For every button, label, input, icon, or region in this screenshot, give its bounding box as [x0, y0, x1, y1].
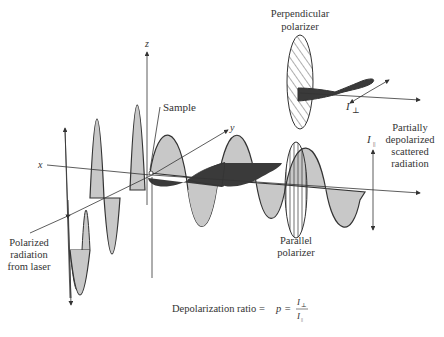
laser-label-3: from laser [8, 261, 51, 272]
i-perp-label: I ⊥ [345, 100, 360, 115]
svg-text:Depolarization ratio =: Depolarization ratio = [172, 303, 267, 314]
svg-text:⊥: ⊥ [301, 302, 307, 308]
scattered-label-2: depolarized [386, 134, 436, 145]
svg-text:||: || [301, 317, 303, 322]
svg-text:I: I [345, 100, 351, 112]
scattered-label-4: radiation [391, 158, 429, 169]
laser-label-2: radiation [10, 249, 48, 260]
perp-polarizer-label-2: polarizer [281, 21, 319, 32]
i-par-label: I || [366, 133, 375, 147]
svg-text:I: I [366, 133, 372, 145]
scattered-label-3: scattered [391, 146, 429, 157]
scattered-parallel-wave [150, 135, 365, 227]
scattered-label-1: Partially [392, 122, 428, 133]
perpendicular-beam [298, 79, 420, 103]
svg-text:=: = [282, 303, 293, 314]
parallel-polarizer [285, 142, 307, 238]
incident-wave [70, 105, 145, 295]
svg-text:⊥: ⊥ [352, 106, 360, 115]
svg-text:||: || [373, 141, 375, 147]
par-polarizer-label-1: Parallel [280, 235, 312, 246]
laser-label-1: Polarized [9, 237, 49, 248]
depolarization-equation: Depolarization ratio = p = I ⊥ I || [172, 297, 308, 322]
perpendicular-polarizer [287, 35, 313, 129]
par-polarizer-label-2: polarizer [277, 247, 315, 258]
svg-text:p: p [275, 303, 281, 314]
z-axis-label: z [144, 38, 149, 49]
x-axis-label: x [37, 159, 43, 170]
depolarization-diagram: z x y Sample Perpendicular polarizer Par… [0, 0, 444, 337]
sample-label: Sample [163, 101, 196, 113]
y-axis-label: y [229, 122, 235, 133]
perp-polarizer-label-1: Perpendicular [271, 8, 330, 19]
